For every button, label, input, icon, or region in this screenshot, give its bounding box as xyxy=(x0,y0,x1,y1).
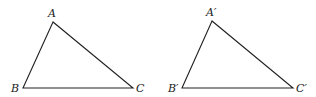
triangle-prime-outline xyxy=(182,21,293,88)
triangle-abc: A B C xyxy=(10,7,145,95)
vertex-label-a-prime: A′ xyxy=(205,6,217,19)
vertex-label-a: A xyxy=(47,7,56,20)
vertex-label-b: B xyxy=(10,82,19,95)
vertex-label-c: C xyxy=(136,82,145,95)
triangles-diagram: A B C A′ B′ C′ xyxy=(0,0,316,97)
vertex-label-b-prime: B′ xyxy=(167,82,179,95)
vertex-label-c-prime: C′ xyxy=(296,82,307,95)
triangle-a-prime-b-prime-c-prime: A′ B′ C′ xyxy=(167,6,307,95)
triangle-abc-outline xyxy=(23,22,133,88)
